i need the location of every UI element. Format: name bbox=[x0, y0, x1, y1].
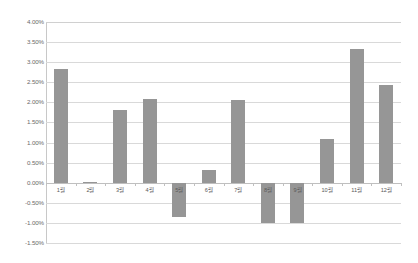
x-axis-tick bbox=[76, 183, 77, 186]
x-axis-label-12: 12월 bbox=[381, 188, 392, 194]
y-axis-tick-label: 4.00% bbox=[0, 19, 44, 25]
x-axis-label-2: 2월 bbox=[86, 188, 94, 194]
y-axis-tick-label: -1.50% bbox=[0, 240, 44, 246]
x-axis-label-7: 7월 bbox=[234, 188, 242, 194]
gridline bbox=[46, 22, 401, 23]
x-axis-label-1: 1월 bbox=[57, 188, 65, 194]
gridline bbox=[46, 203, 401, 204]
gridline bbox=[46, 122, 401, 123]
gridline bbox=[46, 163, 401, 164]
plot-area: 1월 2월 3월 4월 5월 6월 7월 8월 9월 10월 11월 12월 bbox=[46, 22, 401, 243]
bar-10[interactable] bbox=[320, 139, 334, 183]
y-axis-tick-label: 1.00% bbox=[0, 139, 44, 145]
x-axis-tick bbox=[401, 183, 402, 186]
x-axis-tick bbox=[135, 183, 136, 186]
bar-11[interactable] bbox=[350, 49, 364, 183]
y-axis-tick-label: 3.00% bbox=[0, 59, 44, 65]
bar-6[interactable] bbox=[202, 170, 216, 182]
x-axis-label-9: 9월 bbox=[293, 188, 301, 194]
x-axis-tick bbox=[105, 183, 106, 186]
gridline bbox=[46, 42, 401, 43]
x-axis-tick bbox=[164, 183, 165, 186]
gridline bbox=[46, 102, 401, 103]
x-axis-tick bbox=[371, 183, 372, 186]
x-axis-tick bbox=[342, 183, 343, 186]
x-axis-label-3: 3월 bbox=[116, 188, 124, 194]
y-axis-tick-label: 2.00% bbox=[0, 99, 44, 105]
gridline bbox=[46, 223, 401, 224]
x-axis-tick bbox=[283, 183, 284, 186]
gridline bbox=[46, 82, 401, 83]
x-axis-label-6: 6월 bbox=[205, 188, 213, 194]
bar-12[interactable] bbox=[379, 85, 393, 182]
bar-3[interactable] bbox=[113, 110, 127, 182]
gridline bbox=[46, 243, 401, 244]
gridline bbox=[46, 62, 401, 63]
gridline bbox=[46, 143, 401, 144]
y-axis-tick-label: 1.50% bbox=[0, 119, 44, 125]
x-axis-tick bbox=[312, 183, 313, 186]
x-axis-tick bbox=[224, 183, 225, 186]
x-axis-tick bbox=[194, 183, 195, 186]
y-axis-tick-label: 3.50% bbox=[0, 39, 44, 45]
y-axis-tick-label: 0.50% bbox=[0, 160, 44, 166]
y-axis-tick-label: 0.00% bbox=[0, 180, 44, 186]
x-axis-tick bbox=[46, 183, 47, 186]
x-axis-label-10: 10월 bbox=[322, 188, 333, 194]
bar-7[interactable] bbox=[231, 100, 245, 183]
bar-1[interactable] bbox=[54, 69, 68, 182]
y-axis-tick-label: 2.50% bbox=[0, 79, 44, 85]
bar-chart: 4.00% 3.50% 3.00% 2.50% 2.00% 1.50% 1.00… bbox=[0, 0, 418, 263]
y-axis-tick-label: -0.50% bbox=[0, 200, 44, 206]
x-axis-label-4: 4월 bbox=[146, 188, 154, 194]
bar-4[interactable] bbox=[143, 99, 157, 183]
y-axis-tick-label: -1.00% bbox=[0, 220, 44, 226]
bar-2[interactable] bbox=[83, 182, 97, 183]
x-axis-label-5: 5월 bbox=[175, 188, 183, 194]
x-axis-tick bbox=[253, 183, 254, 186]
x-axis-label-11: 11월 bbox=[351, 188, 362, 194]
x-axis-label-8: 8월 bbox=[264, 188, 272, 194]
